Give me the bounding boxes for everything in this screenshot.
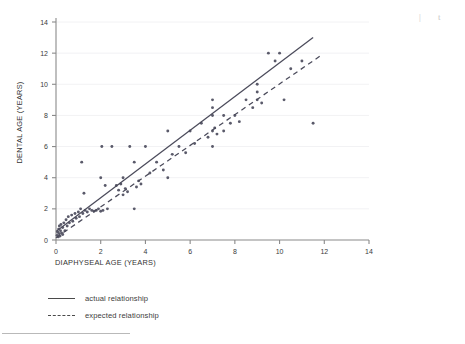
data-point [171, 153, 174, 156]
data-point [256, 91, 259, 94]
data-point [166, 176, 169, 179]
data-point [184, 151, 187, 154]
data-point [267, 52, 270, 55]
data-point [211, 145, 214, 148]
x-tick-label: 10 [276, 248, 284, 255]
data-point [178, 145, 181, 148]
data-point [300, 59, 303, 62]
data-point [78, 215, 81, 218]
data-point [140, 182, 143, 185]
x-tick-label: 8 [233, 248, 237, 255]
data-point [166, 130, 169, 133]
data-point [65, 218, 68, 221]
data-point [274, 59, 277, 62]
x-tick-label: 6 [188, 248, 192, 255]
data-point [70, 214, 73, 217]
data-point [260, 102, 263, 105]
data-point [106, 207, 109, 210]
data-point [59, 223, 62, 226]
data-point [162, 168, 165, 171]
data-point [222, 130, 225, 133]
x-tick-label: 2 [99, 248, 103, 255]
data-point [122, 193, 125, 196]
data-point [245, 98, 248, 101]
y-tick-label: 10 [40, 81, 48, 88]
data-point [62, 221, 65, 224]
y-axis-title: DENTAL AGE (YEARS) [15, 58, 24, 188]
data-point [211, 106, 214, 109]
footer-rule [2, 333, 130, 334]
actual-trend-line [56, 38, 313, 232]
data-point [126, 190, 129, 193]
y-tick-label: 8 [44, 112, 48, 119]
page-artifact-char: t [438, 12, 441, 22]
data-point [283, 98, 286, 101]
y-tick-label: 14 [40, 19, 48, 26]
x-tick-label: 4 [143, 248, 147, 255]
data-point [66, 225, 69, 228]
data-point [122, 176, 125, 179]
legend-item-actual: actual relationship [48, 290, 308, 307]
x-tick-label: 12 [320, 248, 328, 255]
data-point [251, 106, 254, 109]
legend-item-expected: expected relationship [48, 307, 308, 324]
data-point [102, 209, 105, 212]
data-point [80, 161, 83, 164]
data-point [128, 145, 131, 148]
x-tick-label: 14 [365, 248, 373, 255]
data-point [278, 52, 281, 55]
data-point [82, 192, 85, 195]
data-point [133, 161, 136, 164]
legend-key-dashed-line-icon [48, 311, 75, 321]
x-tick-label: 0 [54, 248, 58, 255]
data-point [144, 145, 147, 148]
data-point [99, 176, 102, 179]
data-point [207, 136, 210, 139]
y-tick-label: 4 [44, 174, 48, 181]
plot-area: 0246810121402468101214 DENTAL AGE (YEARS… [0, 0, 465, 280]
y-tick-label: 2 [44, 205, 48, 212]
data-point [77, 211, 80, 214]
data-point [229, 122, 232, 125]
chart-figure: 0246810121402468101214 DENTAL AGE (YEARS… [0, 0, 465, 344]
data-point [135, 186, 138, 189]
data-point [86, 211, 89, 214]
y-tick-label: 6 [44, 143, 48, 150]
chart-legend: actual relationship expected relationshi… [48, 290, 308, 324]
data-point [256, 83, 259, 86]
data-point [67, 215, 70, 218]
data-point [222, 114, 225, 117]
data-point [211, 98, 214, 101]
data-point [100, 145, 103, 148]
data-point [110, 145, 113, 148]
data-point [155, 161, 158, 164]
data-point [289, 67, 292, 70]
legend-label-actual: actual relationship [85, 294, 148, 303]
data-point [61, 233, 64, 236]
data-point [312, 122, 315, 125]
x-axis-title: DIAPHYSEAL AGE (YEARS) [55, 258, 156, 267]
data-point [79, 207, 82, 210]
data-point [104, 184, 107, 187]
legend-label-expected: expected relationship [85, 311, 159, 320]
data-point [133, 207, 136, 210]
legend-key-solid-line-icon [48, 294, 75, 304]
data-point [216, 133, 219, 136]
y-tick-label: 12 [40, 50, 48, 57]
page-artifact-bar: | [419, 12, 421, 22]
scatter-plot-svg: 0246810121402468101214 [0, 0, 465, 280]
y-tick-label: 0 [44, 237, 48, 244]
data-point [74, 212, 77, 215]
data-point [238, 120, 241, 123]
data-point [117, 189, 120, 192]
